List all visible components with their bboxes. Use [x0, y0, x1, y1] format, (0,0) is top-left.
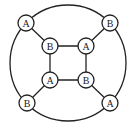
node-label: A: [46, 75, 54, 86]
node-label: B: [107, 18, 114, 29]
node-inner-tr: A: [78, 38, 94, 54]
node-label: B: [24, 98, 31, 109]
node-outer-tl: A: [18, 15, 34, 31]
node-label: B: [83, 75, 90, 86]
node-inner-tl: B: [42, 38, 58, 54]
node-outer-br: A: [102, 95, 118, 111]
node-outer-tr: B: [102, 15, 118, 31]
edges: [26, 23, 110, 103]
node-outer-bl: B: [19, 95, 35, 111]
node-label: B: [47, 41, 54, 52]
node-label: A: [22, 18, 30, 29]
node-label: A: [82, 41, 90, 52]
node-inner-br: B: [78, 72, 94, 88]
node-inner-bl: A: [42, 72, 58, 88]
node-label: A: [106, 98, 114, 109]
graph-diagram: ABBABAAB: [0, 0, 136, 126]
